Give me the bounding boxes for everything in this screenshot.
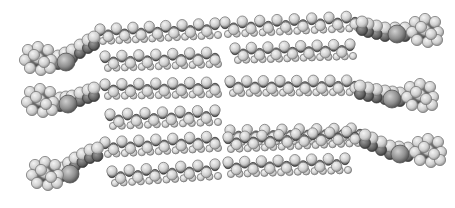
hydrogen-atom bbox=[142, 143, 152, 153]
hydrogen-atom bbox=[166, 115, 176, 125]
hydrogen-atom bbox=[415, 21, 426, 32]
hydrogen-atom bbox=[323, 153, 333, 163]
hydrogen-atom bbox=[88, 31, 100, 43]
hydrogen-atom bbox=[151, 49, 161, 59]
hydrogen-atom bbox=[134, 135, 144, 145]
hydrogen-atom bbox=[117, 136, 127, 146]
hydrogen-atom bbox=[359, 129, 371, 141]
hydrogen-atom bbox=[30, 91, 41, 102]
hydrogen-atom bbox=[177, 20, 187, 30]
hydrogen-atom bbox=[411, 34, 422, 45]
hydrogen-atom bbox=[341, 11, 351, 21]
hydrogen-atom bbox=[231, 139, 241, 149]
chain bbox=[100, 77, 222, 100]
hydrogen-atom bbox=[308, 75, 318, 85]
hydrogen-atom bbox=[271, 49, 281, 59]
hydrogen-atom bbox=[406, 99, 417, 110]
hydrogen-atom bbox=[265, 138, 275, 148]
phosphate-atom bbox=[388, 25, 406, 43]
hydrogen-atom bbox=[141, 164, 151, 174]
hydrogen-atom bbox=[125, 86, 135, 96]
hydrogen-atom bbox=[45, 171, 56, 182]
hydrogen-atom bbox=[282, 137, 292, 147]
hydrogen-atom bbox=[320, 48, 330, 58]
hydrogen-atom bbox=[193, 160, 203, 170]
hydrogen-atom bbox=[356, 16, 368, 28]
hydrogen-atom bbox=[107, 166, 117, 176]
hydrogen-atom bbox=[263, 42, 273, 52]
hydrogen-atom bbox=[265, 163, 275, 173]
hydrogen-atom bbox=[425, 28, 436, 39]
hydrogen-atom bbox=[184, 169, 194, 179]
hydrogen-atom bbox=[152, 29, 162, 39]
hydrogen-atom bbox=[184, 132, 194, 142]
hydrogen-atom bbox=[44, 86, 55, 97]
chain bbox=[100, 131, 222, 157]
hydrogen-atom bbox=[273, 155, 283, 165]
hydrogen-atom bbox=[168, 133, 178, 143]
hydrogen-atom bbox=[414, 154, 425, 165]
hydrogen-atom bbox=[345, 39, 355, 49]
hydrogen-atom bbox=[429, 16, 440, 27]
hydrogen-atom bbox=[287, 49, 297, 59]
hydrogen-atom bbox=[161, 20, 171, 30]
hydrogen-atom bbox=[168, 78, 178, 88]
hydrogen-atom bbox=[105, 109, 115, 119]
phosphate-atom bbox=[57, 53, 75, 71]
hydrogen-atom bbox=[317, 83, 327, 93]
hydrogen-atom bbox=[142, 86, 152, 96]
hydrogen-atom bbox=[290, 155, 300, 165]
hydrogen-atom bbox=[134, 50, 144, 60]
hydrogen-atom bbox=[214, 118, 221, 125]
hydrogen-atom bbox=[42, 44, 53, 55]
hydrogen-atom bbox=[125, 143, 135, 153]
hydrogen-atom bbox=[325, 75, 335, 85]
hydrogen-atom bbox=[201, 47, 211, 57]
hydrogen-atom bbox=[210, 55, 220, 65]
hydrogen-atom bbox=[184, 114, 194, 124]
hydrogen-atom bbox=[223, 132, 233, 142]
hydrogen-atom bbox=[230, 43, 240, 53]
phosphate-atom bbox=[383, 90, 401, 108]
hydrogen-atom bbox=[233, 84, 243, 94]
hydrogen-atom bbox=[28, 49, 39, 60]
hydrogen-atom bbox=[128, 22, 138, 32]
hydrogen-atom bbox=[333, 83, 343, 93]
hydrogen-atom bbox=[201, 77, 211, 87]
hydrogen-atom bbox=[308, 128, 318, 138]
hydrogen-atom bbox=[125, 58, 135, 68]
head-group bbox=[406, 13, 443, 47]
hydrogen-atom bbox=[49, 159, 60, 170]
hydrocarbon-chains bbox=[95, 11, 367, 186]
hydrogen-atom bbox=[114, 117, 124, 127]
hydrogen-atom bbox=[263, 23, 273, 33]
hydrogen-atom bbox=[223, 157, 233, 167]
hydrogen-atom bbox=[231, 165, 241, 175]
hydrogen-atom bbox=[246, 24, 256, 34]
hydrogen-atom bbox=[315, 162, 325, 172]
hydrogen-atom bbox=[159, 57, 169, 67]
hydrogen-atom bbox=[298, 162, 308, 172]
hydrogen-atom bbox=[26, 104, 37, 115]
hydrogen-atom bbox=[35, 164, 46, 175]
hydrogen-atom bbox=[103, 31, 113, 41]
hydrogen-atom bbox=[108, 144, 118, 154]
hydrogen-atom bbox=[176, 141, 186, 151]
hydrogen-atom bbox=[119, 31, 129, 41]
hydrogen-atom bbox=[279, 41, 289, 51]
hydrogen-atom bbox=[254, 50, 264, 60]
hydrogen-atom bbox=[142, 57, 152, 67]
hydrogen-atom bbox=[140, 108, 150, 118]
hydrogen-atom bbox=[220, 17, 230, 27]
hydrogen-atom bbox=[38, 56, 49, 67]
hydrogen-atom bbox=[176, 161, 186, 171]
hydrogen-atom bbox=[283, 83, 293, 93]
hydrogen-atom bbox=[133, 172, 143, 182]
hydrogen-atom bbox=[88, 82, 100, 94]
hydrogen-atom bbox=[202, 26, 212, 36]
hydrogen-atom bbox=[131, 116, 141, 126]
hydrogen-atom bbox=[316, 135, 326, 145]
hydrogen-atom bbox=[324, 127, 334, 137]
hydrogen-atom bbox=[193, 19, 203, 29]
hydrogen-atom bbox=[184, 77, 194, 87]
